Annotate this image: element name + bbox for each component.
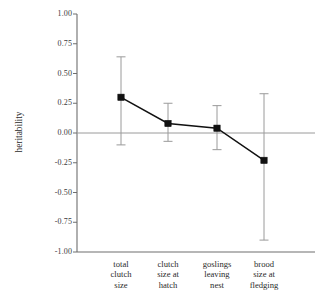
x-axis-category-label: clutch size at hatch (140, 259, 196, 290)
y-axis-tick-label: 1.00 (40, 10, 72, 18)
y-axis-tick-label: -0.50 (40, 189, 72, 197)
chart-figure: 1.000.750.500.250.00-0.25-0.50-0.75-1.00… (0, 0, 321, 301)
series-line (121, 97, 264, 160)
data-point-marker (261, 157, 267, 163)
y-axis-tick-label: 0.50 (40, 70, 72, 78)
x-axis-category-label: brood size at fledging (236, 259, 292, 290)
data-point-marker (214, 125, 220, 131)
y-axis-tick-label: -0.25 (40, 159, 72, 167)
data-point-markers (118, 94, 267, 163)
y-axis-title: heritability (14, 92, 24, 172)
data-point-marker (118, 94, 124, 100)
y-axis-tick-label: -0.75 (40, 218, 72, 226)
series-polyline (121, 97, 264, 160)
y-axis-tick-label: 0.25 (40, 99, 72, 107)
y-axis-tick-label: -1.00 (40, 248, 72, 256)
y-axis-tick-label: 0.75 (40, 40, 72, 48)
y-axis-tick-label: 0.00 (40, 129, 72, 137)
data-point-marker (165, 120, 171, 126)
